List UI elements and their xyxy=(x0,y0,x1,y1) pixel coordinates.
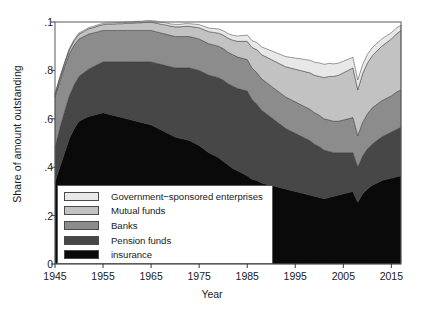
legend-item: Banks xyxy=(58,218,272,233)
x-axis-label-text: Year xyxy=(201,288,222,300)
legend-item: Government−sponsored enterprises xyxy=(58,189,272,204)
legend-swatch xyxy=(64,206,99,215)
x-axis-label: Year xyxy=(0,288,424,300)
legend-label: Mutual funds xyxy=(111,205,165,216)
plot-area xyxy=(0,0,424,315)
legend-swatch xyxy=(64,221,99,230)
legend-swatch xyxy=(64,250,99,259)
chart-figure: Share of amount outstanding 0.2.4.6.8.1 … xyxy=(0,0,424,315)
legend-label: insurance xyxy=(111,249,152,260)
legend-label: Government−sponsored enterprises xyxy=(111,191,263,202)
legend-swatch xyxy=(64,192,99,201)
legend-item: insurance xyxy=(58,247,272,262)
legend-label: Pension funds xyxy=(111,235,171,246)
chart-legend: Government−sponsored enterprisesMutual f… xyxy=(57,185,273,264)
legend-swatch xyxy=(64,236,99,245)
legend-item: Pension funds xyxy=(58,233,272,248)
legend-item: Mutual funds xyxy=(58,204,272,219)
legend-label: Banks xyxy=(111,220,137,231)
